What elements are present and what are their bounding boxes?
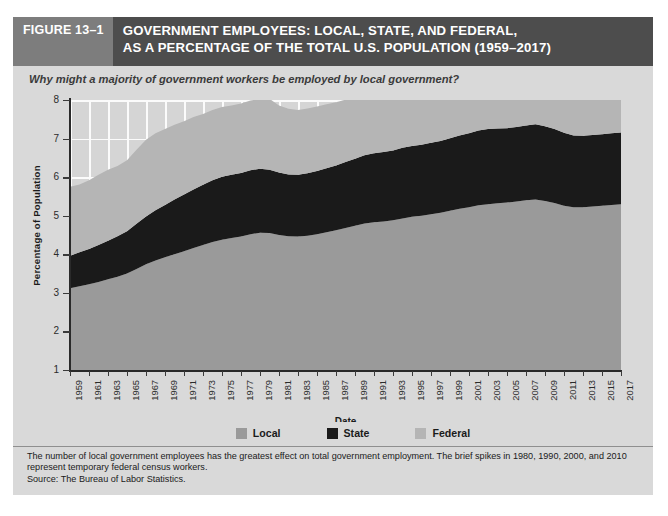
x-tick-mark (621, 371, 622, 376)
x-axis-line (69, 370, 622, 372)
x-tick-label: 1983 (302, 380, 312, 401)
stacked-area-plot (70, 100, 621, 370)
x-tick-mark (203, 371, 204, 376)
x-tick-mark (241, 371, 242, 376)
y-tick-mark (63, 100, 70, 101)
x-tick-label: 1989 (359, 380, 369, 401)
x-tick-label: 1967 (150, 380, 160, 401)
x-tick-label: 1999 (454, 380, 464, 401)
x-tick-label: 1975 (226, 380, 236, 401)
x-tick-mark (488, 371, 489, 376)
footnote-text: The number of local government employees… (27, 451, 639, 474)
y-tick-mark (63, 254, 70, 255)
x-tick-mark (545, 371, 546, 376)
x-tick-mark (431, 371, 432, 376)
x-tick-mark (89, 371, 90, 376)
x-tick-mark (393, 371, 394, 376)
legend-item-federal[interactable]: Federal (415, 427, 470, 439)
x-tick-mark (564, 371, 565, 376)
legend-item-state[interactable]: State (327, 427, 370, 439)
x-tick-label: 1997 (435, 380, 445, 401)
y-tick-label: 8 (31, 94, 59, 105)
legend-label: Local (253, 427, 281, 439)
x-tick-label: 1977 (245, 380, 255, 401)
y-tick-label: 6 (31, 171, 59, 182)
x-tick-mark (127, 371, 128, 376)
legend-label: State (344, 427, 370, 439)
x-tick-mark (412, 371, 413, 376)
y-tick-mark (63, 370, 70, 371)
x-tick-mark (374, 371, 375, 376)
figure-subtitle-band: Why might a majority of government worke… (13, 66, 653, 92)
x-tick-label: 1973 (207, 380, 217, 401)
x-tick-mark (336, 371, 337, 376)
x-tick-mark (298, 371, 299, 376)
figure-title: GOVERNMENT EMPLOYEES: LOCAL, STATE, AND … (113, 17, 551, 66)
x-tick-mark (317, 371, 318, 376)
x-tick-label: 1959 (74, 380, 84, 401)
y-tick-mark (63, 331, 70, 332)
x-tick-mark (70, 371, 71, 376)
figure-footnote: The number of local government employees… (13, 446, 653, 486)
y-tick-label: 4 (31, 248, 59, 259)
chart-region: Percentage of Population 12345678 195919… (13, 92, 653, 422)
y-tick-mark (63, 216, 70, 217)
x-tick-mark (583, 371, 584, 376)
x-tick-label: 2011 (568, 380, 578, 400)
x-tick-label: 1969 (169, 380, 179, 401)
x-tick-label: 1981 (283, 380, 293, 401)
figure-header-bar: FIGURE 13–1 GOVERNMENT EMPLOYEES: LOCAL,… (13, 17, 653, 66)
x-tick-label: 1971 (188, 380, 198, 401)
x-tick-label: 2015 (606, 380, 616, 401)
x-tick-mark (279, 371, 280, 376)
x-tick-label: 2005 (511, 380, 521, 401)
figure-number-label: FIGURE 13–1 (13, 17, 113, 66)
y-tick-label: 7 (31, 133, 59, 144)
x-tick-label: 1993 (397, 380, 407, 401)
x-tick-label: 1985 (321, 380, 331, 401)
x-tick-label: 2013 (587, 380, 597, 401)
x-tick-mark (260, 371, 261, 376)
chart-legend: LocalStateFederal (13, 422, 653, 444)
x-tick-mark (146, 371, 147, 376)
y-tick-label: 5 (31, 210, 59, 221)
figure-page: FIGURE 13–1 GOVERNMENT EMPLOYEES: LOCAL,… (0, 0, 668, 516)
y-tick-mark (63, 293, 70, 294)
x-tick-label: 1991 (378, 380, 388, 401)
y-tick-label: 1 (31, 364, 59, 375)
x-tick-label: 1965 (131, 380, 141, 401)
legend-swatch-icon (236, 428, 247, 439)
x-tick-label: 2017 (625, 380, 635, 401)
x-tick-label: 2009 (549, 380, 559, 401)
x-tick-mark (450, 371, 451, 376)
x-tick-mark (507, 371, 508, 376)
figure-card: FIGURE 13–1 GOVERNMENT EMPLOYEES: LOCAL,… (13, 17, 653, 495)
x-tick-mark (108, 371, 109, 376)
x-tick-label: 2001 (473, 380, 483, 401)
x-tick-mark (355, 371, 356, 376)
plot-area (70, 100, 621, 370)
x-tick-label: 1961 (93, 380, 103, 401)
y-tick-mark (63, 139, 70, 140)
x-tick-mark (602, 371, 603, 376)
legend-label: Federal (432, 427, 470, 439)
y-tick-mark (63, 177, 70, 178)
x-tick-label: 2003 (492, 380, 502, 401)
x-tick-label: 1995 (416, 380, 426, 401)
x-tick-mark (184, 371, 185, 376)
x-tick-label: 1979 (264, 380, 274, 401)
x-tick-label: 1987 (340, 380, 350, 401)
figure-subtitle: Why might a majority of government worke… (13, 73, 459, 85)
legend-swatch-icon (327, 428, 338, 439)
y-tick-label: 2 (31, 325, 59, 336)
legend-swatch-icon (415, 428, 426, 439)
footnote-source: Source: The Bureau of Labor Statistics. (27, 474, 639, 486)
legend-item-local[interactable]: Local (236, 427, 281, 439)
x-tick-mark (469, 371, 470, 376)
x-tick-label: 2007 (530, 380, 540, 401)
x-tick-mark (222, 371, 223, 376)
x-tick-label: 1963 (112, 380, 122, 401)
y-tick-label: 3 (31, 287, 59, 298)
x-tick-mark (165, 371, 166, 376)
x-tick-mark (526, 371, 527, 376)
